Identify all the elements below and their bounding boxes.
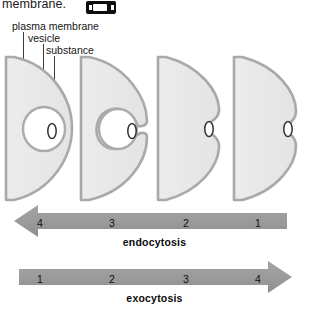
cell-stage-2 (81, 57, 147, 200)
cell-stage-1 (6, 57, 72, 200)
exocytosis-step-1: 1 (33, 273, 47, 285)
endocytosis-step-1: 1 (251, 217, 265, 229)
endocytosis-caption: endocytosis (0, 236, 309, 248)
endocytosis-arrow-shape (14, 205, 287, 237)
endocytosis-arrow-block: 4 3 2 1 endocytosis (0, 204, 309, 256)
endocytosis-step-4: 4 (33, 217, 47, 229)
endocytosis-step-3: 3 (105, 217, 119, 229)
cassette-right-reel (111, 5, 114, 10)
cassette-window (93, 4, 107, 11)
exocytosis-step-3: 3 (179, 273, 193, 285)
cropped-header-strip: membrane. (0, 0, 309, 18)
exocytosis-step-2: 2 (105, 273, 119, 285)
cell-stage-4 (234, 57, 296, 200)
cassette-left-reel (89, 5, 92, 10)
cassette-tape-icon (86, 1, 116, 14)
endocytosis-exocytosis-stage-row (0, 55, 309, 203)
cell-stage-3 (158, 57, 219, 200)
exocytosis-step-4: 4 (251, 273, 265, 285)
endocytosis-step-2: 2 (179, 217, 193, 229)
cropped-caption-text: membrane. (2, 0, 66, 11)
label-plasma-membrane: plasma membrane (12, 21, 99, 32)
exocytosis-arrow-block: 1 2 3 4 exocytosis (0, 260, 309, 316)
label-vesicle: vesicle (28, 33, 60, 44)
exocytosis-caption: exocytosis (0, 292, 309, 304)
